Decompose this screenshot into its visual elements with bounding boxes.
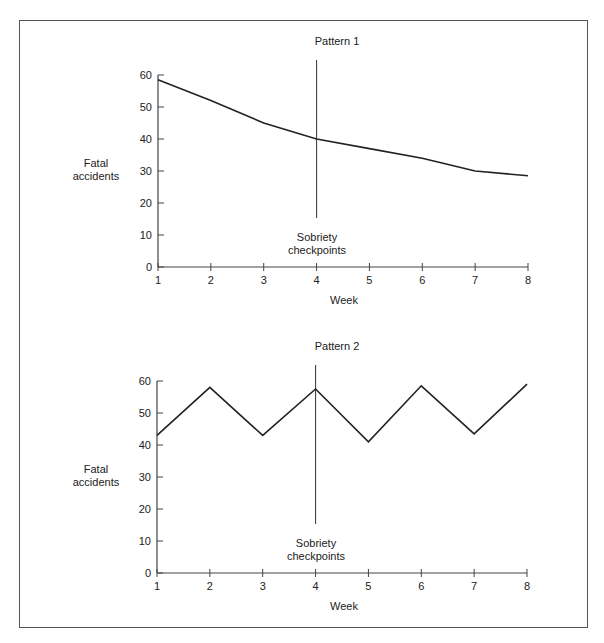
x-tick-label: 5 bbox=[365, 580, 371, 592]
data-series-line bbox=[157, 384, 527, 442]
y-tick-label: 30 bbox=[140, 165, 152, 177]
x-tick-label: 8 bbox=[524, 580, 530, 592]
data-series-line bbox=[158, 80, 528, 176]
y-tick-label: 0 bbox=[145, 567, 151, 579]
annotation-label-line1: Sobriety bbox=[296, 537, 337, 549]
x-tick-label: 4 bbox=[314, 274, 320, 286]
x-tick-label: 7 bbox=[471, 580, 477, 592]
x-tick-label: 2 bbox=[208, 274, 214, 286]
x-tick-label: 6 bbox=[418, 580, 424, 592]
x-tick-label: 7 bbox=[472, 274, 478, 286]
x-tick-label: 1 bbox=[155, 274, 161, 286]
y-tick-label: 20 bbox=[140, 197, 152, 209]
y-axis-label-line1: Fatal bbox=[84, 463, 108, 475]
y-axis-label-line2: accidents bbox=[73, 476, 120, 488]
x-tick-label: 6 bbox=[419, 274, 425, 286]
y-tick-label: 30 bbox=[139, 471, 151, 483]
y-tick-label: 10 bbox=[140, 229, 152, 241]
y-tick-label: 60 bbox=[140, 69, 152, 81]
x-tick-label: 1 bbox=[154, 580, 160, 592]
x-tick-label: 2 bbox=[207, 580, 213, 592]
chart-title: Pattern 2 bbox=[315, 340, 360, 352]
y-axis-label-line2: accidents bbox=[73, 170, 120, 182]
y-tick-label: 50 bbox=[140, 101, 152, 113]
y-axis-label-line1: Fatal bbox=[84, 157, 108, 169]
y-tick-label: 40 bbox=[139, 439, 151, 451]
y-tick-label: 10 bbox=[139, 535, 151, 547]
y-tick-label: 0 bbox=[146, 261, 152, 273]
y-tick-label: 50 bbox=[139, 407, 151, 419]
x-tick-label: 3 bbox=[260, 580, 266, 592]
x-tick-label: 4 bbox=[313, 580, 319, 592]
chart-pattern-1: Pattern 1 Fatal accidents Week Sobriety … bbox=[73, 35, 531, 306]
y-tick-label: 20 bbox=[139, 503, 151, 515]
chart-title: Pattern 1 bbox=[315, 35, 360, 47]
x-axis-label: Week bbox=[330, 294, 358, 306]
annotation-label-line2: checkpoints bbox=[287, 550, 346, 562]
charts-canvas: Pattern 1 Fatal accidents Week Sobriety … bbox=[0, 0, 604, 643]
x-axis-label: Week bbox=[330, 600, 358, 612]
chart-pattern-2: Pattern 2 Fatal accidents Week Sobriety … bbox=[73, 340, 530, 612]
x-tick-label: 5 bbox=[366, 274, 372, 286]
y-tick-label: 60 bbox=[139, 375, 151, 387]
y-tick-label: 40 bbox=[140, 133, 152, 145]
x-tick-label: 8 bbox=[525, 274, 531, 286]
annotation-label-line1: Sobriety bbox=[297, 231, 338, 243]
x-tick-label: 3 bbox=[261, 274, 267, 286]
annotation-label-line2: checkpoints bbox=[288, 244, 347, 256]
